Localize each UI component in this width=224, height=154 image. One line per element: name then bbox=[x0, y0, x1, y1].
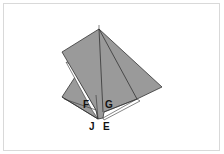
origami-diagram: F G J E bbox=[0, 0, 224, 154]
label-e: E bbox=[103, 121, 110, 132]
label-f: F bbox=[83, 99, 89, 110]
label-g: G bbox=[105, 99, 113, 110]
label-j: J bbox=[89, 121, 95, 132]
